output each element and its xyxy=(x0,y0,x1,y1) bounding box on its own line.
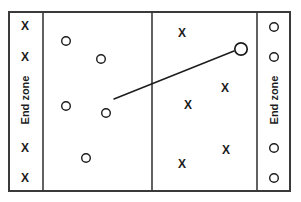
defender-left-endzone-2: X xyxy=(21,50,29,64)
defender-field-1-glyph: X xyxy=(178,26,186,40)
defender-left-endzone-3-glyph: X xyxy=(21,141,29,155)
defender-field-3-glyph: X xyxy=(184,98,192,112)
defender-left-endzone-2-glyph: X xyxy=(21,50,29,64)
defender-left-endzone-4-glyph: X xyxy=(21,171,29,185)
defender-field-5-glyph: X xyxy=(222,143,230,157)
field-diagram: End zone End zone XXXXXXXXX xyxy=(0,0,301,202)
defender-field-3: X xyxy=(184,98,192,112)
defender-field-4: X xyxy=(178,157,186,171)
field-canvas: End zone End zone XXXXXXXXX xyxy=(0,0,301,202)
defender-field-2-glyph: X xyxy=(221,81,229,95)
defender-left-endzone-1: X xyxy=(21,19,29,33)
left-endzone-label-text: End zone xyxy=(19,76,31,125)
field-boundary xyxy=(9,12,290,191)
right-endzone-label-text: End zone xyxy=(268,76,280,125)
left-endzone-label: End zone xyxy=(19,76,31,125)
defender-left-endzone-3: X xyxy=(21,141,29,155)
defender-field-2: X xyxy=(221,81,229,95)
defender-field-1: X xyxy=(178,26,186,40)
defender-field-4-glyph: X xyxy=(178,157,186,171)
defender-field-5: X xyxy=(222,143,230,157)
defender-left-endzone-4: X xyxy=(21,171,29,185)
field-border-group xyxy=(9,12,290,191)
defender-left-endzone-1-glyph: X xyxy=(21,19,29,33)
right-endzone-label: End zone xyxy=(268,76,280,125)
